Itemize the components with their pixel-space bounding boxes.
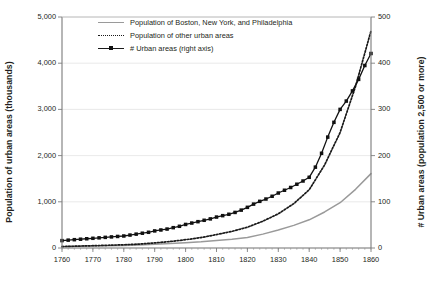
series-marker — [295, 182, 299, 186]
series-marker — [345, 99, 349, 103]
series-marker — [258, 200, 262, 204]
series-marker — [147, 231, 151, 235]
series-marker — [283, 189, 287, 193]
chart-figure: Population of urban areas (thousands) # … — [0, 0, 430, 284]
legend-label: Population of Boston, New York, and Phil… — [130, 18, 292, 27]
x-axis-ticklabel: 1790 — [138, 255, 172, 264]
series-marker — [332, 121, 336, 125]
series-marker — [79, 237, 83, 241]
series-marker — [73, 238, 77, 242]
series-marker — [209, 217, 213, 221]
series-marker — [116, 235, 120, 239]
series-marker — [351, 89, 355, 93]
series-marker — [91, 237, 95, 241]
y-axis-left-ticklabel: 1,000 — [22, 197, 56, 206]
solid-gray-line-key — [97, 17, 125, 28]
x-axis-ticklabel: 1800 — [169, 255, 203, 264]
series-marker — [246, 206, 250, 210]
legend-label: # Urban areas (right axis) — [130, 44, 213, 53]
x-axis-ticklabel: 1770 — [76, 255, 110, 264]
y-axis-left-ticklabel: 2,000 — [22, 151, 56, 160]
chart-legend: Population of Boston, New York, and Phil… — [97, 16, 307, 55]
series-marker — [153, 229, 157, 233]
y-axis-right-ticklabel: 200 — [378, 151, 412, 160]
series-marker — [110, 235, 114, 239]
y-axis-right-ticklabel: 500 — [378, 12, 412, 21]
series-marker — [128, 233, 132, 237]
series-marker — [363, 64, 367, 67]
series-marker — [122, 234, 126, 238]
series-marker — [307, 176, 311, 180]
series-marker — [97, 236, 101, 240]
series-marker — [357, 78, 361, 82]
x-axis-ticklabel: 1840 — [292, 255, 326, 264]
series-marker — [289, 186, 293, 190]
legend-item-other-urban-areas: Population of other urban areas — [97, 29, 307, 42]
series-marker — [66, 238, 70, 242]
legend-item-boston-ny-philadelphia: Population of Boston, New York, and Phil… — [97, 16, 307, 29]
x-axis-ticklabel: 1820 — [230, 255, 264, 264]
y-axis-left-ticklabel: 4,000 — [22, 58, 56, 67]
series-marker — [184, 223, 188, 227]
y-axis-right-ticklabel: 400 — [378, 58, 412, 67]
legend-label: Population of other urban areas — [130, 31, 234, 40]
series-marker — [252, 202, 256, 206]
series-marker — [277, 191, 281, 195]
series-marker — [239, 208, 243, 212]
marker-line-key — [97, 43, 125, 54]
y-axis-right-ticklabel: 0 — [378, 243, 412, 252]
series-marker — [85, 237, 89, 241]
x-axis-ticklabel: 1810 — [200, 255, 234, 264]
series-marker — [165, 227, 169, 231]
x-axis-ticklabel: 1780 — [107, 255, 141, 264]
series-marker — [215, 215, 219, 219]
series-marker — [270, 195, 274, 199]
series-marker — [326, 135, 330, 139]
dotted-black-line-key — [97, 30, 125, 41]
y-axis-left-ticklabel: 5,000 — [22, 12, 56, 21]
series-marker — [178, 225, 182, 229]
x-axis-ticklabel: 1850 — [323, 255, 357, 264]
series-marker — [196, 220, 200, 224]
series-marker — [227, 213, 231, 217]
series-marker — [134, 232, 138, 236]
series-line-0 — [62, 174, 371, 247]
legend-item-urban-areas-count: # Urban areas (right axis) — [97, 42, 307, 55]
y-axis-right-ticklabel: 100 — [378, 197, 412, 206]
series-marker — [233, 211, 237, 215]
series-marker — [104, 236, 108, 240]
series-marker — [264, 197, 268, 201]
x-axis-ticklabel: 1830 — [261, 255, 295, 264]
series-marker — [338, 108, 342, 112]
series-marker — [141, 231, 145, 235]
series-marker — [171, 226, 175, 230]
y-axis-left-ticklabel: 0 — [22, 243, 56, 252]
x-axis-ticklabel: 1860 — [354, 255, 388, 264]
series-marker — [190, 221, 194, 225]
series-marker — [159, 228, 163, 232]
series-marker — [314, 165, 318, 169]
series-marker — [320, 152, 324, 156]
series-marker — [301, 179, 305, 183]
y-axis-right-ticklabel: 300 — [378, 104, 412, 113]
series-marker — [202, 219, 206, 223]
y-axis-left-ticklabel: 3,000 — [22, 104, 56, 113]
series-marker — [221, 214, 225, 218]
x-axis-ticklabel: 1760 — [45, 255, 79, 264]
